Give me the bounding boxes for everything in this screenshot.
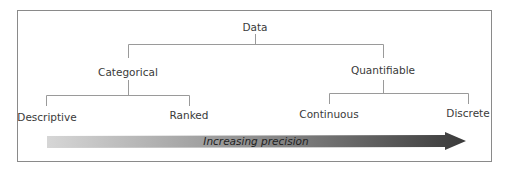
node-discrete: Discrete	[446, 107, 489, 119]
node-categorical: Categorical	[98, 66, 158, 78]
node-continuous: Continuous	[299, 108, 358, 120]
arrow-label: Increasing precision	[203, 135, 308, 147]
node-ranked: Ranked	[170, 109, 209, 121]
node-descriptive: Descriptive	[17, 111, 76, 123]
node-quantifiable: Quantifiable	[351, 64, 415, 76]
node-data: Data	[242, 21, 267, 33]
